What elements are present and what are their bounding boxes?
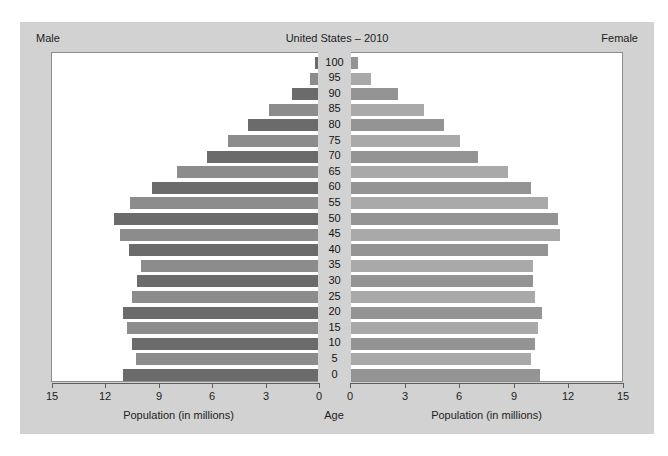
male-tick-label-0: 0 [304, 390, 334, 402]
female-bar-age-75 [351, 135, 460, 147]
male-bar-row [52, 244, 319, 256]
male-bar-age-60 [152, 182, 319, 194]
female-bar-row [351, 151, 624, 163]
male-bar-row [52, 260, 319, 272]
female-tick-label-0: 0 [335, 390, 365, 402]
age-tick-label-60: 60 [318, 180, 351, 193]
male-bar-row [52, 57, 319, 69]
age-tick-label-15: 15 [318, 321, 351, 334]
male-bar-row [52, 338, 319, 350]
female-bar-row [351, 369, 624, 381]
female-bars-group [351, 53, 624, 383]
male-bar-row [52, 353, 319, 365]
male-tick-label-9: 9 [144, 390, 174, 402]
male-bar-age-90 [292, 88, 319, 100]
male-bar-age-80 [248, 119, 319, 131]
male-tick [105, 383, 106, 388]
male-tick-label-3: 3 [251, 390, 281, 402]
chart-title: United States – 2010 [20, 32, 654, 44]
male-bar-row [52, 151, 319, 163]
age-tick-label-95: 95 [318, 71, 351, 84]
male-bar-row [52, 166, 319, 178]
age-tick-label-85: 85 [318, 102, 351, 115]
figure-background: Male United States – 2010 Female 1009590… [20, 22, 654, 434]
female-bar-row [351, 182, 624, 194]
age-tick-label-20: 20 [318, 305, 351, 318]
male-bar-row [52, 213, 319, 225]
age-tick-label-90: 90 [318, 87, 351, 100]
male-bar-age-85 [269, 104, 319, 116]
age-tick-label-50: 50 [318, 212, 351, 225]
male-bar-age-70 [207, 151, 319, 163]
male-tick-label-15: 15 [37, 390, 67, 402]
age-tick-label-40: 40 [318, 243, 351, 256]
female-bar-row [351, 166, 624, 178]
male-bar-row [52, 104, 319, 116]
female-bar-age-85 [351, 104, 424, 116]
age-tick-label-30: 30 [318, 274, 351, 287]
female-bar-row [351, 197, 624, 209]
female-bar-age-80 [351, 119, 444, 131]
male-bar-row [52, 197, 319, 209]
male-bar-row [52, 73, 319, 85]
male-bar-age-45 [120, 229, 319, 241]
male-bar-age-15 [127, 322, 319, 334]
female-bar-age-40 [351, 244, 548, 256]
male-tick [212, 383, 213, 388]
female-bar-age-15 [351, 322, 538, 334]
center-axis-title: Age [254, 409, 414, 421]
female-bar-row [351, 135, 624, 147]
female-bar-age-45 [351, 229, 560, 241]
female-tick [459, 383, 460, 388]
female-tick [514, 383, 515, 388]
female-bar-row [351, 104, 624, 116]
female-bar-row [351, 307, 624, 319]
male-bar-row [52, 307, 319, 319]
female-bar-row [351, 229, 624, 241]
female-bar-age-55 [351, 197, 548, 209]
male-bar-age-0 [123, 369, 319, 381]
female-tick [350, 383, 351, 388]
age-tick-label-45: 45 [318, 227, 351, 240]
female-bar-age-5 [351, 353, 531, 365]
male-bar-row [52, 322, 319, 334]
female-bar-row [351, 260, 624, 272]
female-tick [568, 383, 569, 388]
female-bar-age-70 [351, 151, 478, 163]
right-axis-title: Population (in millions) [407, 409, 567, 421]
female-tick-label-15: 15 [608, 390, 638, 402]
male-bar-row [52, 275, 319, 287]
male-bar-age-20 [123, 307, 319, 319]
age-tick-label-65: 65 [318, 165, 351, 178]
female-bar-age-100 [351, 57, 358, 69]
male-bar-age-35 [141, 260, 319, 272]
male-bar-row [52, 88, 319, 100]
male-tick [52, 383, 53, 388]
male-bar-age-65 [177, 166, 319, 178]
age-tick-label-100: 100 [318, 56, 351, 69]
female-axis-line [350, 383, 623, 384]
female-bar-row [351, 353, 624, 365]
female-tick [623, 383, 624, 388]
female-bar-row [351, 338, 624, 350]
age-axis-strip: 1009590858075706560555045403530252015105… [318, 52, 351, 382]
female-bar-row [351, 213, 624, 225]
female-bar-age-65 [351, 166, 508, 178]
age-tick-label-0: 0 [318, 368, 351, 381]
male-bars-group [52, 53, 319, 383]
male-tick [319, 383, 320, 388]
female-tick [405, 383, 406, 388]
age-tick-label-10: 10 [318, 336, 351, 349]
population-pyramid-screenshot: Male United States – 2010 Female 1009590… [0, 0, 668, 456]
male-bar-age-40 [129, 244, 319, 256]
female-bar-row [351, 57, 624, 69]
male-bar-row [52, 291, 319, 303]
female-bar-row [351, 244, 624, 256]
female-bar-row [351, 88, 624, 100]
left-axis-title: Population (in millions) [99, 409, 259, 421]
age-tick-label-35: 35 [318, 258, 351, 271]
female-bar-age-0 [351, 369, 540, 381]
female-tick-label-3: 3 [390, 390, 420, 402]
male-bar-age-5 [136, 353, 319, 365]
female-bar-age-20 [351, 307, 542, 319]
